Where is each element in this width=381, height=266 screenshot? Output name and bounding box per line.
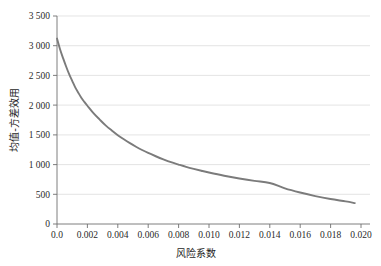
y-tick-label: 3 500: [29, 11, 51, 21]
y-tick-label: 2 000: [29, 101, 51, 111]
x-tick-labels: 0.0 0.002 0.004 0.006 0.008 0.010 0.012 …: [51, 230, 372, 240]
utility-curve: [57, 39, 355, 204]
x-tick-label: 0.006: [138, 230, 160, 240]
x-tick-label: 0.002: [77, 230, 99, 240]
y-tick-labels: 3 500 3 000 2 500 2 000 1 500 1 000 500 …: [29, 11, 51, 229]
y-tickmarks: [53, 16, 57, 224]
x-tick-label: 0.012: [229, 230, 251, 240]
x-tick-label: 0.018: [320, 230, 342, 240]
y-tick-label: 1 500: [29, 130, 51, 140]
y-tick-label: 500: [36, 190, 51, 200]
x-tick-label: 0.016: [290, 230, 312, 240]
y-tick-label: 3 000: [29, 41, 51, 51]
horizontal-gridlines: [57, 16, 370, 194]
x-axis-title: 风险系数: [176, 247, 216, 259]
y-axis-title: 均值-方差效用: [8, 88, 20, 152]
x-tick-label: 0.010: [198, 230, 220, 240]
y-tick-label: 0: [45, 219, 50, 229]
series-group: [57, 39, 355, 204]
x-tick-label: 0.004: [107, 230, 129, 240]
chart-figure: 3 500 3 000 2 500 2 000 1 500 1 000 500 …: [0, 0, 381, 266]
x-tick-label: 0.008: [168, 230, 190, 240]
y-tick-label: 2 500: [29, 71, 51, 81]
mean-variance-utility-chart: 3 500 3 000 2 500 2 000 1 500 1 000 500 …: [0, 0, 381, 266]
x-tick-label: 0.0: [51, 230, 63, 240]
x-tick-label: 0.020: [350, 230, 372, 240]
y-tick-label: 1 000: [29, 160, 51, 170]
x-tick-label: 0.014: [259, 230, 281, 240]
x-tickmarks: [57, 224, 361, 228]
